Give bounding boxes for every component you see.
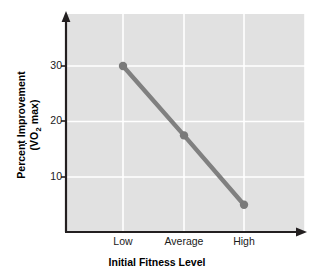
x-tick-label-high: High: [233, 236, 255, 247]
data-point-low: [119, 62, 127, 70]
vo2-o: O: [28, 132, 40, 140]
x-tick-label-average: Average: [165, 236, 204, 247]
y-axis-title-paren-open: (: [28, 147, 40, 151]
plot-background: [66, 14, 305, 232]
x-axis-title: Initial Fitness Level: [0, 256, 314, 268]
x-axis-tick-labels: Low Average High: [0, 236, 314, 252]
y-axis-title-line1: Percent Improvement: [15, 71, 28, 178]
y-axis-title-line2: (VO2 max): [28, 99, 43, 150]
y-axis-title: Percent Improvement (VO2 max): [12, 40, 46, 210]
data-point-average: [180, 131, 188, 139]
x-tick-label-low: Low: [113, 236, 132, 247]
vo2-v-with-dot: V: [28, 140, 41, 147]
data-point-high: [240, 201, 248, 209]
vo2-subscript-2: 2: [34, 127, 43, 131]
vo2-max-suffix: max): [28, 99, 40, 127]
chart-figure: 30 20 10 Percent Improvement (VO2 max) L…: [0, 0, 314, 274]
